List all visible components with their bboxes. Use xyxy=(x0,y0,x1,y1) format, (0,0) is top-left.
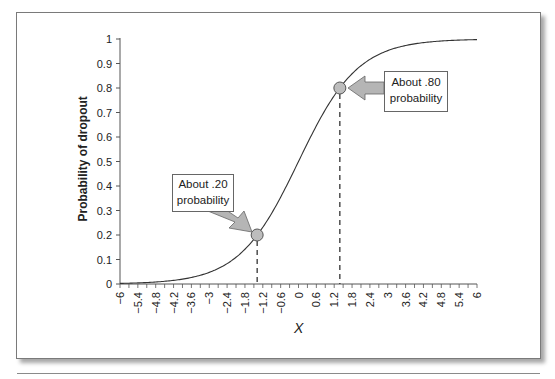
x-tick-label: 1.2 xyxy=(328,292,340,307)
x-axis-title: X xyxy=(294,320,303,336)
x-tick-label: −1.2 xyxy=(257,292,269,314)
y-tick-label: 0.6 xyxy=(97,131,112,143)
x-tick-label: −4.8 xyxy=(150,292,162,314)
data-marker xyxy=(334,82,346,94)
y-tick-label: 0.5 xyxy=(97,156,112,168)
x-tick-label: 3 xyxy=(382,292,394,298)
x-tick-label: 2.4 xyxy=(364,292,376,307)
x-tick-label: −3.6 xyxy=(185,292,197,314)
y-tick-label: 0.4 xyxy=(97,180,112,192)
x-tick-label: 3.6 xyxy=(400,292,412,307)
y-tick-label: 0.7 xyxy=(97,107,112,119)
x-tick-label: −1.8 xyxy=(239,292,251,314)
y-tick-label: 0.1 xyxy=(97,254,112,266)
annotation-low-line1: About .20 xyxy=(173,176,233,192)
y-axis-title: Probability of dropout xyxy=(76,97,90,222)
x-tick-label: 0.6 xyxy=(310,292,322,307)
x-tick-label: −4.2 xyxy=(168,292,180,314)
y-tick-label: 0 xyxy=(106,278,112,290)
x-tick-label: −6 xyxy=(114,292,126,305)
x-tick-label: −2.4 xyxy=(221,292,233,314)
annotation-high: About .80 probability xyxy=(384,71,448,112)
y-tick-label: 1 xyxy=(106,33,112,45)
x-tick-label: 0 xyxy=(293,292,305,298)
annotation-low-line2: probability xyxy=(173,192,233,208)
annotation-high-line1: About .80 xyxy=(385,74,447,90)
annotation-low: About .20 probability xyxy=(172,174,234,212)
data-marker xyxy=(251,229,263,241)
x-tick-label: 1.8 xyxy=(346,292,358,307)
x-tick-label: −0.6 xyxy=(275,292,287,314)
annotation-high-line2: probability xyxy=(385,90,447,106)
x-tick-label: 4.2 xyxy=(417,292,429,307)
y-tick-label: 0.3 xyxy=(97,205,112,217)
x-tick-label: 6 xyxy=(471,292,483,298)
x-tick-label: −5.4 xyxy=(132,292,144,314)
x-tick-label: 4.8 xyxy=(435,292,447,307)
y-tick-label: 0.8 xyxy=(97,82,112,94)
y-tick-label: 0.2 xyxy=(97,229,112,241)
y-tick-label: 0.9 xyxy=(97,58,112,70)
x-tick-label: −3 xyxy=(203,292,215,305)
arrow-high-icon xyxy=(348,76,384,100)
x-tick-label: 5.4 xyxy=(453,292,465,307)
